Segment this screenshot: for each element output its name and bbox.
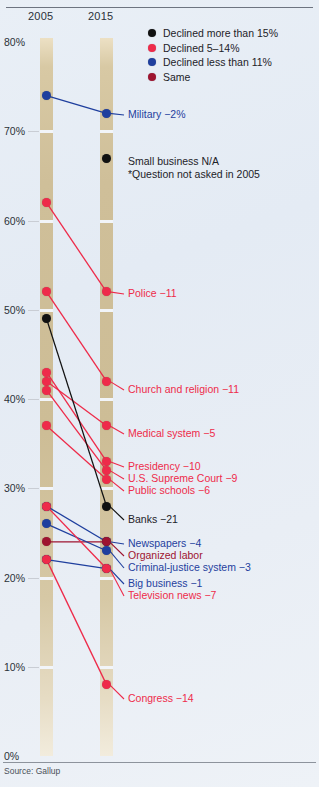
leader-line <box>110 506 125 520</box>
connector-public-schools <box>47 426 107 480</box>
leader-line <box>110 113 125 115</box>
series-label-newspapers-4: Newspapers −4 <box>128 538 201 550</box>
legend-label: Declined more than 15% <box>163 27 278 39</box>
legend-label: Declined less than 11% <box>163 56 272 68</box>
datapoint-presidency-2015 <box>102 457 111 466</box>
datapoint-small-business-2015 <box>102 154 111 163</box>
datapoint-presidency-2005 <box>42 368 51 377</box>
connector-presidency <box>47 372 107 461</box>
series-label-church-and-religion-11: Church and religion −11 <box>128 384 239 396</box>
leader-line <box>110 426 125 434</box>
series-label-big-business-1: Big business −1 <box>128 578 202 590</box>
leader-line <box>110 685 125 699</box>
connector-big-business <box>47 560 107 569</box>
datapoint-u-s-supreme-court-2015 <box>102 466 111 475</box>
connector-church-and-religion <box>47 292 107 381</box>
series-label-criminal-justice-system-3: Criminal-justice system −3 <box>128 562 251 574</box>
connector-military <box>47 96 107 114</box>
connector-u-s-supreme-court <box>47 390 107 470</box>
series-label-banks-21: Banks −21 <box>128 514 178 526</box>
series-label-military-2: Military −2% <box>128 109 185 121</box>
datapoint-church-and-religion-2015 <box>102 377 111 386</box>
series-label-u-s-supreme-court-9: U.S. Supreme Court −9 <box>128 473 237 485</box>
connector-television-news <box>47 506 107 568</box>
small-business-note-line1: Small business N/A <box>128 155 219 168</box>
datapoint-military-2015 <box>102 109 111 118</box>
datapoint-television-news-2015 <box>102 564 111 573</box>
series-label-congress-14: Congress −14 <box>128 693 194 705</box>
series-label-presidency-10: Presidency −10 <box>128 461 201 473</box>
datapoint-television-news-2005 <box>42 502 51 511</box>
legend: Declined more than 15% Declined 5–14% De… <box>148 26 278 84</box>
source-credit: Source: Gallup <box>4 766 60 776</box>
leader-line <box>110 470 125 479</box>
connector-banks <box>47 319 107 506</box>
legend-dot-declined-more-than-15 <box>148 29 156 37</box>
connector-medical-system <box>47 381 107 426</box>
datapoint-u-s-supreme-court-2005 <box>42 386 51 395</box>
connector-congress <box>47 560 107 685</box>
series-label-public-schools-6: Public schools −6 <box>128 485 210 497</box>
series-label-medical-system-5: Medical system −5 <box>128 428 215 440</box>
series-label-organized-labor: Organized labor <box>128 550 203 562</box>
leader-line <box>110 479 125 491</box>
legend-item: Same <box>148 70 278 85</box>
series-label-police-11: Police −11 <box>128 288 177 300</box>
small-business-note-line2: *Question not asked in 2005 <box>128 168 260 181</box>
legend-dot-same <box>148 73 156 81</box>
legend-label: Declined 5–14% <box>163 42 239 54</box>
datapoint-banks-2015 <box>102 502 111 511</box>
legend-dot-declined-less-than-11 <box>148 58 156 66</box>
legend-item: Declined less than 11% <box>148 55 278 70</box>
legend-item: Declined 5–14% <box>148 41 278 56</box>
leader-line <box>110 461 125 467</box>
leader-line <box>110 381 125 390</box>
legend-item: Declined more than 15% <box>148 26 278 41</box>
connector-police <box>47 203 107 292</box>
datapoint-medical-system-2005 <box>42 377 51 386</box>
series-label-television-news-7: Television news −7 <box>128 590 216 602</box>
legend-dot-declined-5-14 <box>148 44 156 52</box>
leader-line <box>110 292 125 294</box>
datapoint-public-schools-2015 <box>102 475 111 484</box>
legend-label: Same <box>163 71 190 83</box>
datapoint-military-2005 <box>42 91 51 100</box>
